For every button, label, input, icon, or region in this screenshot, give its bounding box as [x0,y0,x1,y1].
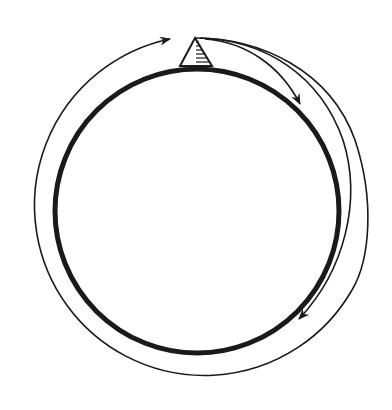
loop-diagram [0,0,392,410]
diagram-canvas: Circular loop with a triangular marker o… [0,0,392,410]
long-right-arrow-icon [200,38,351,319]
triangle-marker-icon [180,38,212,66]
main-ring [55,69,339,353]
outer-loop-arrow-icon [35,39,352,375]
